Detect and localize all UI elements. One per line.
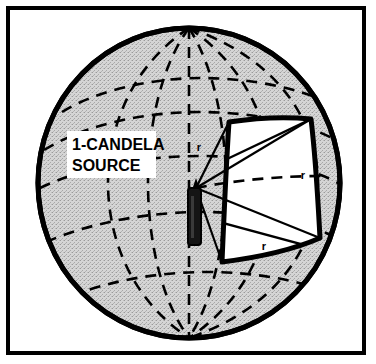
figure-root: r r r 1-CANDELA SOURCE (0, 0, 376, 364)
source-label-line2: SOURCE (72, 157, 141, 174)
source-label-box: 1-CANDELA SOURCE (67, 131, 165, 178)
unit-solid-angle-patch (219, 112, 330, 262)
candle-source (188, 178, 201, 245)
steradian-diagram: r r r 1-CANDELA SOURCE (0, 0, 376, 364)
candle-highlight (191, 196, 194, 238)
radius-label-bottom: r (262, 240, 267, 252)
candle-body (188, 188, 201, 245)
source-label-line1: 1-CANDELA (72, 136, 165, 153)
radius-label-right: r (301, 169, 306, 181)
radius-label-top: r (197, 141, 202, 153)
